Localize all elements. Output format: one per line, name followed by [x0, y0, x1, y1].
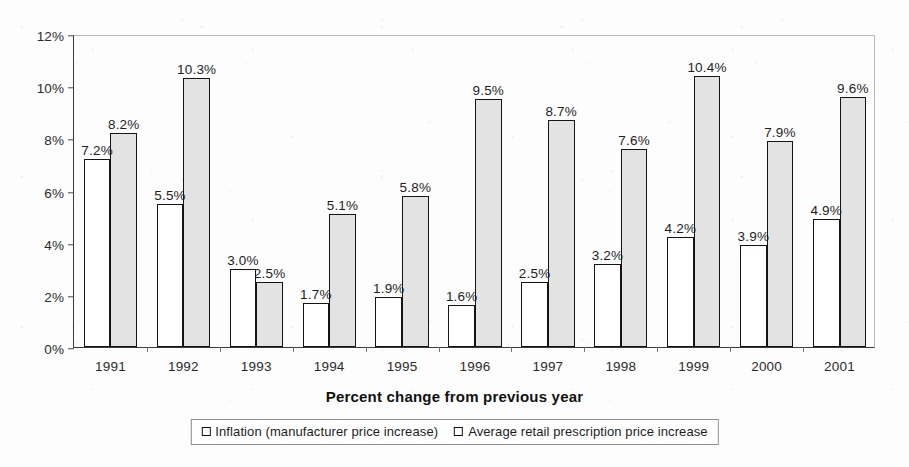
- y-axis-tick-label: 6%: [44, 185, 64, 200]
- x-axis-tick: [803, 347, 804, 352]
- y-axis-tick-label: 0%: [44, 342, 64, 357]
- bar-value-label: 1.6%: [446, 289, 478, 304]
- bar: 1.6%: [448, 305, 475, 347]
- legend-swatch-icon: [454, 427, 463, 436]
- x-axis-tick: [511, 347, 512, 352]
- bar: 7.2%: [84, 159, 111, 347]
- bar-value-label: 1.7%: [300, 287, 332, 302]
- bar-value-label: 4.2%: [665, 221, 697, 236]
- y-axis-tick-label: 4%: [44, 237, 64, 252]
- x-axis-tick: [657, 347, 658, 352]
- x-axis-tick: [584, 347, 585, 352]
- bar: 5.1%: [329, 214, 356, 347]
- bar-value-label: 5.8%: [400, 180, 432, 195]
- x-axis-tick: [439, 347, 440, 352]
- bar: 8.2%: [110, 133, 137, 347]
- chart-legend: Inflation (manufacturer price increase)A…: [190, 419, 718, 445]
- bar: 10.3%: [183, 78, 210, 347]
- bar-value-label: 5.1%: [327, 198, 359, 213]
- x-axis-category-label: 1998: [605, 359, 636, 374]
- x-axis-category-label: 1995: [387, 359, 418, 374]
- x-axis-category-label: 1993: [241, 359, 272, 374]
- x-axis-tick: [730, 347, 731, 352]
- bar: 9.6%: [840, 97, 867, 347]
- bar-value-label: 2.5%: [254, 266, 286, 281]
- x-axis-category-label: 1997: [532, 359, 563, 374]
- x-axis-title: Percent change from previous year: [0, 388, 909, 405]
- x-axis-category-label: 1996: [460, 359, 491, 374]
- bar-value-label: 3.0%: [227, 253, 259, 268]
- bar: 1.7%: [303, 303, 330, 347]
- y-axis-tick: [68, 348, 74, 349]
- bar: 5.5%: [157, 204, 184, 347]
- legend-label: Inflation (manufacturer price increase): [215, 424, 438, 439]
- bar-value-label: 9.5%: [473, 83, 505, 98]
- bar: 7.9%: [767, 141, 794, 347]
- bar-value-label: 7.9%: [764, 125, 796, 140]
- bar-value-label: 10.4%: [687, 60, 726, 75]
- bar-value-label: 10.3%: [177, 62, 216, 77]
- bar: 3.2%: [594, 264, 621, 347]
- y-axis-tick-label: 10%: [37, 81, 64, 96]
- plot-area: 0%2%4%6%8%10%12% 19911992199319941995199…: [73, 35, 875, 348]
- bar: 9.5%: [475, 99, 502, 347]
- bar-value-label: 7.6%: [618, 133, 650, 148]
- x-axis-category-label: 1994: [314, 359, 345, 374]
- bar: 1.9%: [375, 297, 402, 347]
- legend-item: Inflation (manufacturer price increase): [201, 424, 438, 439]
- x-axis-category-label: 2001: [824, 359, 855, 374]
- bar: 3.0%: [230, 269, 257, 347]
- legend-label: Average retail prescription price increa…: [468, 424, 708, 439]
- bar-value-label: 4.9%: [810, 203, 842, 218]
- bar-value-label: 3.2%: [592, 248, 624, 263]
- y-axis-tick-label: 12%: [37, 29, 64, 44]
- x-axis-tick: [220, 347, 221, 352]
- bar: 4.2%: [667, 237, 694, 347]
- bar: 2.5%: [256, 282, 283, 347]
- bar-value-label: 5.5%: [154, 188, 186, 203]
- bar: 5.8%: [402, 196, 429, 347]
- bar: 10.4%: [694, 76, 721, 347]
- y-axis-tick-label: 8%: [44, 133, 64, 148]
- bar-value-label: 3.9%: [738, 229, 770, 244]
- bar-value-label: 2.5%: [519, 266, 551, 281]
- bar-chart: 0%2%4%6%8%10%12% 19911992199319941995199…: [0, 0, 909, 467]
- x-axis-tick: [293, 347, 294, 352]
- legend-swatch-icon: [201, 427, 210, 436]
- bar-series-container: 7.2%8.2%5.5%10.3%3.0%2.5%1.7%5.1%1.9%5.8…: [74, 36, 874, 347]
- x-axis-category-label: 1991: [95, 359, 126, 374]
- bar-value-label: 1.9%: [373, 281, 405, 296]
- bar-value-label: 8.2%: [108, 117, 140, 132]
- bar: 4.9%: [813, 219, 840, 347]
- x-axis-tick: [147, 347, 148, 352]
- x-axis-category-label: 2000: [751, 359, 782, 374]
- x-axis-tick: [366, 347, 367, 352]
- y-axis-tick-label: 2%: [44, 289, 64, 304]
- bar: 3.9%: [740, 245, 767, 347]
- bar-value-label: 8.7%: [545, 104, 577, 119]
- x-axis-category-label: 1999: [678, 359, 709, 374]
- bar: 8.7%: [548, 120, 575, 347]
- bar-value-label: 7.2%: [81, 143, 113, 158]
- bar: 2.5%: [521, 282, 548, 347]
- bar: 7.6%: [621, 149, 648, 347]
- bar-value-label: 9.6%: [837, 81, 869, 96]
- x-axis-category-label: 1992: [168, 359, 199, 374]
- legend-item: Average retail prescription price increa…: [454, 424, 708, 439]
